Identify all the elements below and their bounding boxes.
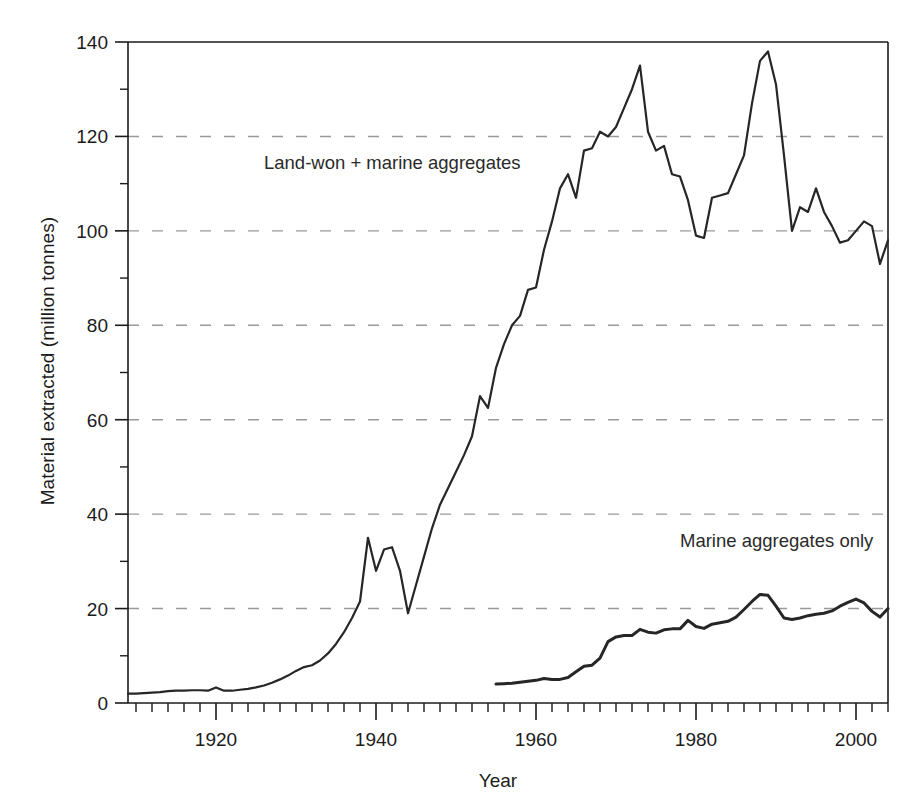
y-tick-label-20: 20 — [87, 599, 108, 620]
x-tick-label-1920: 1920 — [195, 729, 237, 750]
land-won-plus-marine-label: Land-won + marine aggregates — [264, 152, 521, 173]
y-axis-title: Material extracted (million tonnes) — [35, 141, 61, 581]
x-tick-label-1980: 1980 — [675, 729, 717, 750]
marine-only-label: Marine aggregates only — [680, 530, 874, 551]
y-tick-label-140: 140 — [76, 32, 108, 53]
y-axis-title-text: Material extracted (million tonnes) — [37, 217, 59, 506]
chart-container: 020406080100120140 19201940196019802000 … — [0, 0, 922, 809]
x-tick-label-1940: 1940 — [355, 729, 397, 750]
y-tick-label-40: 40 — [87, 504, 108, 525]
x-tick-label-1960: 1960 — [515, 729, 557, 750]
x-axis-title-text: Year — [479, 770, 517, 791]
x-tick-label-2000: 2000 — [835, 729, 877, 750]
y-tick-label-60: 60 — [87, 410, 108, 431]
line-chart: 020406080100120140 19201940196019802000 … — [0, 0, 922, 809]
y-tick-label-80: 80 — [87, 315, 108, 336]
chart-background — [0, 0, 922, 809]
y-tick-label-100: 100 — [76, 221, 108, 242]
y-tick-label-120: 120 — [76, 126, 108, 147]
x-axis-title: Year — [428, 770, 568, 792]
y-tick-label-0: 0 — [97, 693, 108, 714]
